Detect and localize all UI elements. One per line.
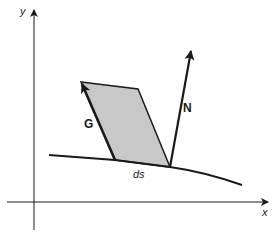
x-axis-label: x [261,206,268,218]
g-vector-label: G [84,117,93,131]
parallelogram [81,82,170,167]
n-vector-label: N [183,101,192,115]
vector-diagram: y x G N ds [0,0,278,234]
y-axis-label: y [19,5,27,17]
ds-label: ds [133,168,145,180]
